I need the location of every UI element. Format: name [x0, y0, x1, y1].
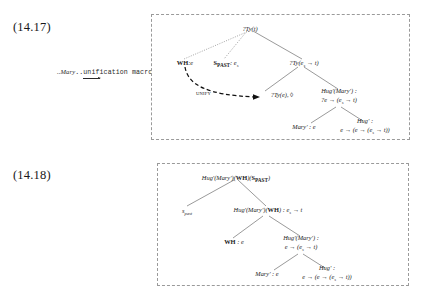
node-hug-leaf-1417: Hug' : e → (e → (es → t)) — [340, 117, 389, 134]
node-mary-leaf-1418: Mary' : e — [255, 270, 278, 278]
equation-number-1418: (14.18) — [13, 168, 51, 183]
node-s-past-leaf-1418: spast — [182, 207, 192, 215]
unify-annotation-1417: UNIFY — [196, 91, 211, 96]
node-s-past-1417: SPAST: es — [214, 59, 239, 67]
figure-14-18: (14.18) ...tree-completion macros... Hug… — [0, 150, 423, 297]
tree-edges-1418 — [158, 164, 408, 285]
node-hug-mary-1418: Hug'(Mary') : e → (es → t) — [283, 234, 319, 251]
node-hug-leaf-1418: Hug' : e → (e → (es → t)) — [302, 264, 351, 281]
node-wh-1418: WH : e — [224, 238, 244, 246]
node-mary-leaf-1417: Mary' : e — [292, 123, 315, 131]
node-hug-mary-wh-1418: Hug'(Mary')(WH) : es → t — [234, 206, 303, 214]
tree-diagram-box-1418: Hug'(Mary')(WH)(SPAST) spast Hug'(Mary')… — [157, 163, 409, 286]
equation-number-1417: (14.17) — [13, 20, 51, 35]
macro-caption-1417: ..Mary..unification macro.. — [57, 68, 160, 79]
macro-caption-arrow-1417 — [83, 78, 100, 79]
node-ty-es-t-1417: ?Ty(es → t) — [289, 59, 318, 67]
figure-14-17: (14.17) ..Mary..unification macro.. ?T — [0, 0, 423, 150]
node-hug-mary-1417: Hug'(Mary') : ?e → (es → t) — [321, 87, 357, 104]
node-ty-e-diamond-1417: ?Ty(e), ◊ — [271, 91, 294, 99]
tree-diagram-box-1417: ?Ty(t) WH:e SPAST: es ?Ty(es → t) UNIFY … — [151, 14, 410, 140]
node-wh-1417: WH:e — [177, 59, 193, 67]
node-root-1418: Hug'(Mary')(WH)(SPAST) — [202, 174, 270, 182]
node-root-1417: ?Ty(t) — [242, 25, 257, 33]
macro-caption-text-1417: ..Mary..unification macro.. — [57, 69, 160, 76]
